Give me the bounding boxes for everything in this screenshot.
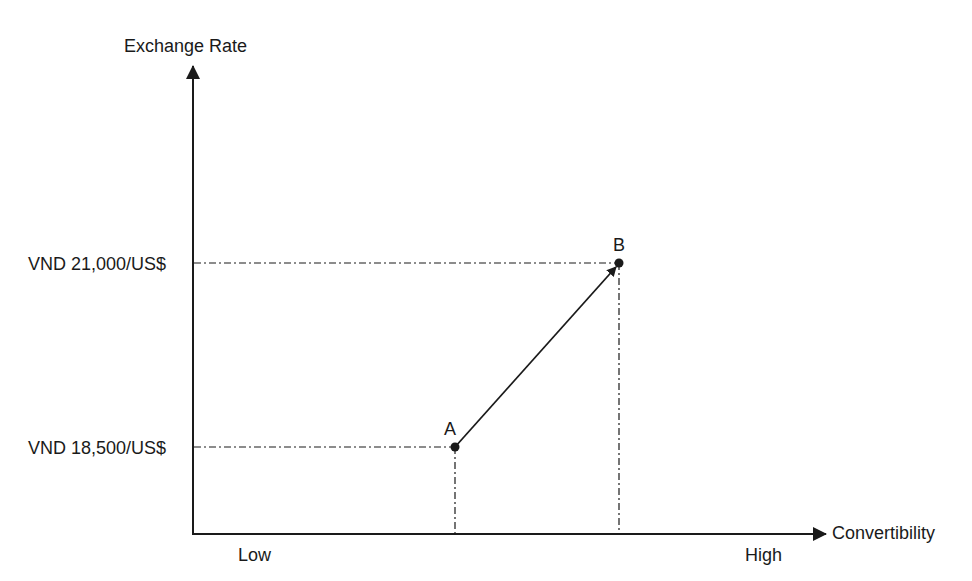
arrow-a-to-b bbox=[455, 267, 616, 447]
x-axis-low-label: Low bbox=[238, 546, 271, 564]
point-b-label: B bbox=[613, 236, 625, 254]
point-a-marker bbox=[451, 443, 460, 452]
point-b-marker bbox=[615, 259, 624, 268]
point-a-label: A bbox=[444, 420, 456, 438]
diagram-canvas bbox=[0, 0, 972, 581]
y-level-21000-label: VND 21,000/US$ bbox=[28, 255, 166, 273]
y-axis-label: Exchange Rate bbox=[124, 37, 247, 55]
y-level-18500-label: VND 18,500/US$ bbox=[28, 439, 166, 457]
x-axis-label: Convertibility bbox=[832, 524, 935, 542]
x-axis-high-label: High bbox=[745, 546, 782, 564]
